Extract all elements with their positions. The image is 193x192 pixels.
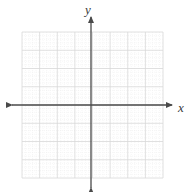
- y-axis-label: y: [85, 3, 91, 16]
- coordinate-plane-figure: y x: [0, 0, 193, 192]
- coordinate-plane-svg: [0, 0, 193, 192]
- x-axis-label: x: [178, 101, 184, 114]
